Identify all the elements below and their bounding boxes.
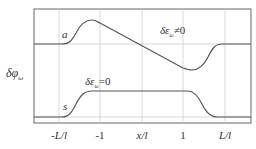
- curve-a-label: a: [62, 28, 68, 40]
- y-axis-label: δφω: [6, 66, 23, 82]
- annotation-a: δεω≠0: [160, 24, 185, 38]
- chart-plot: [0, 0, 256, 149]
- x-tick-neg-1: -1: [95, 129, 104, 141]
- x-tick-1: 1: [180, 129, 186, 141]
- x-tick-neg-L: -L/l: [51, 129, 67, 141]
- x-tick-L: L/l: [219, 129, 231, 141]
- x-axis-label: x/l: [137, 129, 148, 141]
- curve-s-label: s: [63, 100, 67, 112]
- annotation-s: δεω=0: [85, 75, 110, 89]
